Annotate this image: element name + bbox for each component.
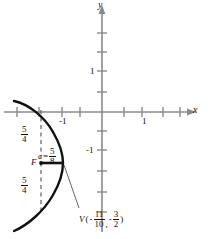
x-axis-label: x (193, 105, 197, 115)
open-paren: ( (86, 215, 89, 224)
fraction-numerator: 11 (94, 210, 105, 219)
x-tick-label-1: 1 (142, 117, 147, 126)
focal-distance-symbol: c (38, 152, 42, 161)
fraction-numerator: 3 (113, 210, 120, 219)
fraction-five-eighths: 5 8 (49, 147, 56, 167)
fraction-numerator: 5 (21, 176, 28, 185)
distance-label-upper: 5 4 (21, 125, 28, 145)
vertex-coordinate-label: V ( - 11 10 , - 3 2 ) (79, 210, 123, 230)
parabola-figure: x y -1 1 1 -1 5 4 5 4 c = 5 8 F V ( - 11 (0, 0, 209, 239)
fraction-denominator: 4 (21, 134, 28, 144)
close-paren: ) (120, 215, 123, 224)
figure-canvas (0, 0, 209, 239)
fraction-denominator: 10 (94, 219, 105, 229)
equals-sign: = (43, 152, 48, 161)
fraction-denominator: 2 (113, 219, 120, 229)
y-axis-label: y (98, 0, 102, 10)
vertex-leader-line (64, 165, 79, 208)
vertex-x-sign: - (90, 215, 93, 224)
fraction-denominator: 8 (49, 156, 56, 166)
vertex-y-sign: - (109, 215, 112, 224)
fraction-five-fourths-lower: 5 4 (21, 176, 28, 196)
y-axis (97, 5, 107, 232)
y-tick-label-1: 1 (90, 67, 95, 76)
fraction-denominator: 4 (21, 185, 28, 195)
y-tick-label-neg1: -1 (86, 146, 94, 155)
fraction-numerator: 5 (49, 147, 56, 156)
focal-distance-label: c = 5 8 (38, 147, 56, 167)
fraction-vertex-y: 3 2 (113, 210, 120, 230)
fraction-vertex-x: 11 10 (94, 210, 105, 230)
vertex-name: V (79, 215, 85, 224)
focus-point-label: F (31, 158, 37, 167)
distance-label-lower: 5 4 (21, 176, 28, 196)
fraction-five-fourths-upper: 5 4 (21, 125, 28, 145)
x-tick-label-neg1: -1 (59, 117, 67, 126)
comma-separator: , (106, 220, 108, 230)
fraction-numerator: 5 (21, 125, 28, 134)
